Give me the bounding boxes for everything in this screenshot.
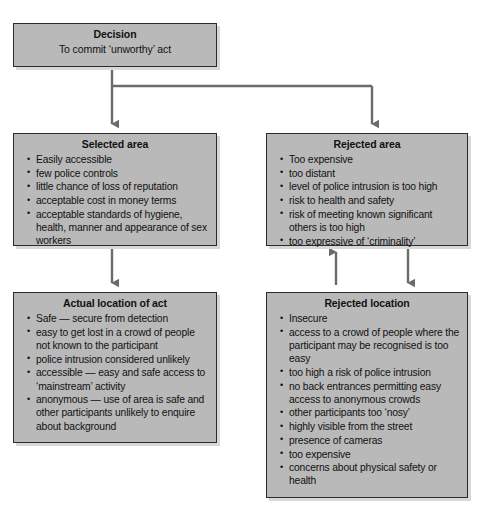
box-rejected-area-list: Too expensive too distant level of polic… <box>267 153 467 253</box>
connector-decision-stem <box>112 67 372 86</box>
box-selected-area-title: Selected area <box>14 134 216 152</box>
list-item: too expensive <box>280 448 461 461</box>
list-item: acceptable cost in money terms <box>27 194 210 207</box>
list-item: concerns about physical safety or health <box>280 461 461 487</box>
box-rejected-area-title: Rejected area <box>267 134 467 152</box>
box-rejected-area: Rejected area Too expensive too distant … <box>266 133 468 246</box>
box-actual-location-list: Safe — secure from detection easy to get… <box>14 312 216 438</box>
list-item: presence of cameras <box>280 434 461 447</box>
box-rejected-location-list: Insecure access to a crowd of people whe… <box>267 312 467 493</box>
list-item: level of police intrusion is too high <box>280 180 461 193</box>
list-item: too expressive of ‘criminality’ <box>280 235 461 248</box>
list-item: accessible — easy and safe access to ‘ma… <box>27 366 210 392</box>
box-decision-subtitle: To commit ‘unworthy’ act <box>14 42 216 60</box>
box-rejected-location-title: Rejected location <box>267 293 467 311</box>
list-item: Insecure <box>280 312 461 325</box>
list-item: too high a risk of police intrusion <box>280 366 461 379</box>
box-selected-area-list: Easily accessible few police controls li… <box>14 153 216 253</box>
list-item: risk of meeting known significant others… <box>280 208 461 234</box>
list-item: little chance of loss of reputation <box>27 180 210 193</box>
list-item: police intrusion considered unlikely <box>27 353 210 366</box>
list-item: Easily accessible <box>27 153 210 166</box>
list-item: Safe — secure from detection <box>27 312 210 325</box>
box-actual-location-title: Actual location of act <box>14 293 216 311</box>
list-item: access to a crowd of people where the pa… <box>280 326 461 366</box>
list-item: other participants too ‘nosy’ <box>280 406 461 419</box>
box-actual-location: Actual location of act Safe — secure fro… <box>13 292 217 443</box>
list-item: highly visible from the street <box>280 420 461 433</box>
list-item: Too expensive <box>280 153 461 166</box>
list-item: no back entrances permitting easy access… <box>280 380 461 406</box>
list-item: few police controls <box>27 167 210 180</box>
list-item: too distant <box>280 167 461 180</box>
box-selected-area: Selected area Easily accessible few poli… <box>13 133 217 246</box>
box-decision: Decision To commit ‘unworthy’ act <box>13 23 217 67</box>
list-item: easy to get lost in a crowd of people no… <box>27 326 210 352</box>
flowchart-canvas: Decision To commit ‘unworthy’ act Select… <box>0 0 479 514</box>
list-item: acceptable standards of hygiene, health,… <box>27 208 210 248</box>
list-item: anonymous — use of area is safe and othe… <box>27 393 210 433</box>
list-item: risk to health and safety <box>280 194 461 207</box>
box-rejected-location: Rejected location Insecure access to a c… <box>266 292 468 498</box>
box-decision-title: Decision <box>14 24 216 42</box>
